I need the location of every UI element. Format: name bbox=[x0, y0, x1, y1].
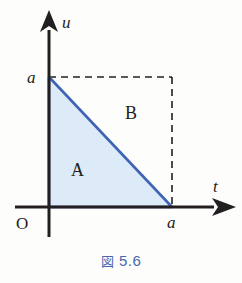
x-axis-tick-label-a: a bbox=[167, 213, 176, 232]
caption-number: 5.6 bbox=[114, 252, 141, 269]
x-axis-label: t bbox=[213, 177, 219, 196]
origin-label: O bbox=[16, 214, 28, 233]
figure-container: u t a a O A B 図 5.6 bbox=[0, 0, 242, 283]
x-axis-arrowhead-icon bbox=[212, 198, 236, 216]
y-axis-tick-label-a: a bbox=[27, 68, 36, 87]
y-axis-label: u bbox=[62, 13, 71, 32]
y-axis-arrowhead-icon bbox=[40, 10, 58, 32]
region-label-a: A bbox=[71, 160, 84, 180]
coordinate-plot: u t a a O A B bbox=[0, 0, 242, 283]
region-label-b: B bbox=[125, 103, 137, 123]
figure-caption: 図 5.6 bbox=[0, 251, 242, 270]
caption-kanji: 図 bbox=[101, 254, 115, 269]
